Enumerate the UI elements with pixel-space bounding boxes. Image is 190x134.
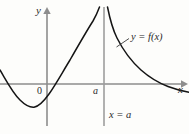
curve-equation-label: y = f(x) <box>131 32 163 43</box>
y-axis-group <box>43 7 50 126</box>
asymptote-equation-label: x = a <box>109 110 131 121</box>
function-graph-canvas <box>0 0 189 134</box>
y-axis-label: y <box>36 5 41 16</box>
x-axis-label: x <box>178 84 183 95</box>
origin-label: 0 <box>37 86 42 96</box>
y-axis-arrowhead <box>43 7 50 14</box>
math-figure-panel: y x 0 a y = f(x) x = a <box>0 0 189 134</box>
curve-right-branch <box>108 7 190 92</box>
x-tick-label-a: a <box>93 86 98 96</box>
curve-left-branch <box>0 7 100 107</box>
